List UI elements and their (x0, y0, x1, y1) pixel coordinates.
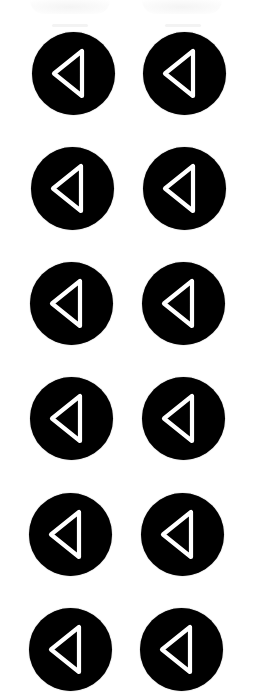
back-triangle-icon (143, 147, 226, 230)
back-button[interactable] (140, 608, 223, 691)
back-button[interactable] (31, 147, 114, 230)
back-button[interactable] (143, 147, 226, 230)
back-triangle-icon (29, 608, 112, 691)
back-triangle-icon (141, 493, 224, 576)
back-button[interactable] (142, 377, 225, 460)
back-button-grid (0, 0, 257, 694)
back-triangle-icon (142, 262, 225, 345)
back-button[interactable] (29, 493, 112, 576)
back-triangle-icon (140, 608, 223, 691)
back-triangle-icon (143, 32, 226, 115)
back-button[interactable] (141, 493, 224, 576)
back-button[interactable] (32, 32, 115, 115)
back-triangle-icon (32, 32, 115, 115)
back-triangle-icon (142, 377, 225, 460)
back-triangle-icon (30, 262, 113, 345)
back-button[interactable] (30, 262, 113, 345)
back-triangle-icon (29, 493, 112, 576)
back-button[interactable] (142, 262, 225, 345)
back-button[interactable] (30, 377, 113, 460)
back-button[interactable] (143, 32, 226, 115)
back-button[interactable] (29, 608, 112, 691)
back-triangle-icon (30, 377, 113, 460)
back-triangle-icon (31, 147, 114, 230)
